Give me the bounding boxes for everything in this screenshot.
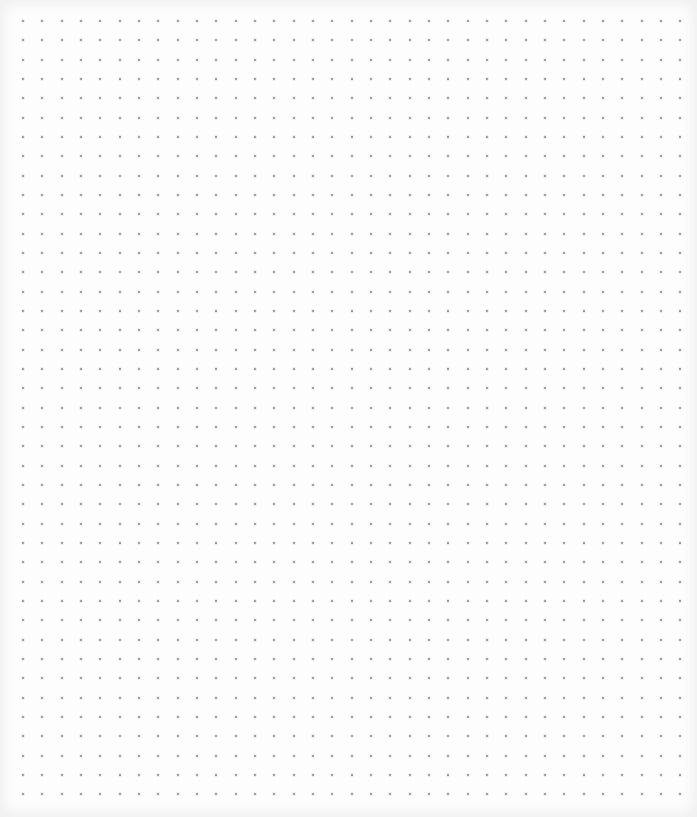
grid-dot: [61, 503, 63, 505]
grid-dot: [409, 426, 411, 428]
grid-dot: [563, 136, 565, 138]
grid-dot: [196, 639, 198, 641]
grid-dot: [641, 291, 643, 293]
grid-dot: [293, 78, 295, 80]
grid-dot: [563, 735, 565, 737]
grid-dot: [177, 20, 179, 22]
grid-dot: [370, 426, 372, 428]
grid-dot: [177, 465, 179, 467]
grid-dot: [602, 619, 604, 621]
grid-dot: [177, 639, 179, 641]
grid-dot: [660, 175, 662, 177]
grid-dot: [312, 291, 314, 293]
grid-dot: [196, 233, 198, 235]
grid-dot: [235, 503, 237, 505]
grid-dot: [525, 20, 527, 22]
grid-dot: [447, 407, 449, 409]
grid-dot: [621, 735, 623, 737]
grid-dot: [621, 581, 623, 583]
grid-dot: [312, 581, 314, 583]
grid-dot: [80, 39, 82, 41]
grid-dot: [312, 329, 314, 331]
grid-dot: [293, 97, 295, 99]
grid-dot: [22, 20, 24, 22]
grid-dot: [177, 117, 179, 119]
grid-dot: [544, 542, 546, 544]
grid-dot: [525, 542, 527, 544]
grid-dot: [196, 523, 198, 525]
grid-dot: [486, 619, 488, 621]
grid-dot: [621, 78, 623, 80]
grid-dot: [215, 465, 217, 467]
grid-dot: [41, 387, 43, 389]
grid-dot: [61, 175, 63, 177]
grid-dot: [215, 329, 217, 331]
grid-dot: [563, 97, 565, 99]
grid-dot: [312, 20, 314, 22]
grid-dot: [293, 310, 295, 312]
grid-dot: [428, 658, 430, 660]
grid-dot: [119, 194, 121, 196]
grid-dot: [61, 793, 63, 795]
grid-dot: [254, 20, 256, 22]
grid-dot: [331, 755, 333, 757]
grid-dot: [177, 658, 179, 660]
grid-dot: [177, 59, 179, 61]
grid-dot: [544, 136, 546, 138]
grid-dot: [99, 426, 101, 428]
grid-dot: [293, 774, 295, 776]
grid-dot: [544, 78, 546, 80]
grid-dot: [157, 445, 159, 447]
grid-dot: [428, 407, 430, 409]
grid-dot: [409, 20, 411, 22]
grid-dot: [389, 542, 391, 544]
grid-dot: [428, 252, 430, 254]
grid-dot: [273, 213, 275, 215]
grid-dot: [583, 175, 585, 177]
grid-dot: [660, 426, 662, 428]
grid-dot: [138, 387, 140, 389]
grid-dot: [621, 465, 623, 467]
grid-dot: [583, 523, 585, 525]
grid-dot: [157, 136, 159, 138]
grid-dot: [583, 387, 585, 389]
grid-dot: [660, 484, 662, 486]
grid-dot: [409, 503, 411, 505]
grid-dot: [254, 368, 256, 370]
grid-dot: [22, 194, 24, 196]
grid-dot: [563, 581, 565, 583]
grid-dot: [428, 774, 430, 776]
grid-dot: [41, 697, 43, 699]
grid-dot: [312, 774, 314, 776]
grid-dot: [177, 368, 179, 370]
grid-dot: [544, 387, 546, 389]
grid-dot: [660, 97, 662, 99]
grid-dot: [486, 600, 488, 602]
grid-dot: [428, 484, 430, 486]
grid-dot: [679, 387, 681, 389]
grid-dot: [428, 735, 430, 737]
grid-dot: [293, 233, 295, 235]
grid-dot: [312, 426, 314, 428]
grid-dot: [467, 716, 469, 718]
grid-dot: [409, 407, 411, 409]
grid-dot: [177, 600, 179, 602]
grid-dot: [679, 581, 681, 583]
grid-dot: [215, 735, 217, 737]
grid-dot: [196, 755, 198, 757]
grid-dot: [679, 465, 681, 467]
grid-dot: [351, 677, 353, 679]
grid-dot: [138, 78, 140, 80]
grid-dot: [621, 523, 623, 525]
grid-dot: [312, 523, 314, 525]
grid-dot: [254, 523, 256, 525]
grid-dot: [331, 39, 333, 41]
grid-dot: [61, 368, 63, 370]
grid-dot: [602, 291, 604, 293]
grid-dot: [331, 658, 333, 660]
grid-dot: [389, 329, 391, 331]
grid-dot: [273, 387, 275, 389]
grid-dot: [41, 194, 43, 196]
grid-dot: [467, 639, 469, 641]
grid-dot: [22, 97, 24, 99]
